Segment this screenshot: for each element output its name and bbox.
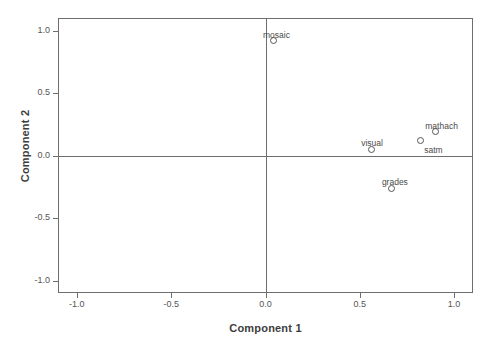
x-tick-mark: [77, 293, 78, 298]
x-tick-label: 0.0: [246, 299, 286, 309]
data-point-label: grades: [382, 177, 408, 187]
x-tick-label: -1.0: [57, 299, 97, 309]
y-tick-mark: [53, 218, 58, 219]
scatter-plot-figure: Component 2 -1.0-0.50.00.51.0 1.00.50.0-…: [0, 0, 491, 353]
y-tick-label: -1.0: [8, 275, 50, 285]
x-tick-mark: [171, 293, 172, 298]
data-point-label: mosaic: [263, 30, 290, 40]
y-tick-mark: [53, 93, 58, 94]
plot-area: [58, 18, 473, 293]
y-tick-label: 1.0: [8, 25, 50, 35]
data-point-label: mathach: [425, 121, 458, 131]
x-tick-mark: [454, 293, 455, 298]
y-tick-mark: [53, 31, 58, 32]
horizontal-reference-line: [59, 156, 472, 157]
y-axis-title: Component 2: [19, 76, 31, 216]
y-tick-mark: [53, 281, 58, 282]
x-tick-mark: [360, 293, 361, 298]
data-point-marker: [417, 137, 424, 144]
y-tick-label: -0.5: [8, 212, 50, 222]
x-tick-mark: [266, 293, 267, 298]
data-point-label: visual: [361, 138, 383, 148]
y-tick-label: 0.5: [8, 87, 50, 97]
x-tick-label: 0.5: [340, 299, 380, 309]
data-point-label: satm: [424, 145, 442, 155]
x-tick-label: -0.5: [151, 299, 191, 309]
x-axis-title: Component 1: [58, 322, 473, 334]
y-tick-mark: [53, 156, 58, 157]
y-tick-label: 0.0: [8, 150, 50, 160]
x-tick-label: 1.0: [434, 299, 474, 309]
